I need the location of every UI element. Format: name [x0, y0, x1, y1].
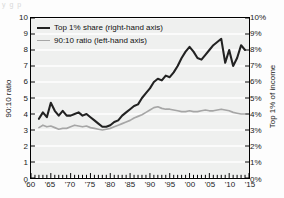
y-tick-label-left: 9: [8, 29, 28, 38]
x-tick-label: '95: [165, 180, 175, 189]
y-tick-label-left: 3: [8, 126, 28, 135]
y-tick-label-right: 7%: [250, 61, 262, 70]
y-tick-label-left: 1: [8, 158, 28, 167]
y-tick-label-right: 5%: [250, 94, 262, 103]
series-line-9010-ratio: [39, 107, 245, 130]
legend-label: Top 1% share (right-hand axis): [54, 23, 163, 32]
legend-label: 90:10 ratio (left-hand axis): [54, 36, 147, 45]
y-tick-label-left: 8: [8, 45, 28, 54]
legend-swatch-icon: [37, 40, 50, 41]
legend-item[interactable]: 90:10 ratio (left-hand axis): [37, 35, 163, 46]
y-tick-label-right: 8%: [250, 45, 262, 54]
x-tick-label: '00: [185, 180, 195, 189]
y-tick-label-left: 2: [8, 142, 28, 151]
x-tick-label: '75: [85, 180, 95, 189]
y-axis-ticks-left: 012345678910: [8, 17, 28, 179]
y-tick-label-left: 5: [8, 94, 28, 103]
x-tick-label: '80: [105, 180, 115, 189]
y-tick-label-right: 2%: [250, 142, 262, 151]
x-tick-label: '70: [65, 180, 75, 189]
y-tick-label-left: 6: [8, 77, 28, 86]
y-tick-label-right: 10%: [250, 13, 266, 22]
chart-legend: Top 1% share (right-hand axis)90:10 rati…: [37, 22, 163, 46]
x-axis-ticks: '60'65'70'75'80'85'90'95'00'05'10'15: [30, 180, 250, 194]
x-tick-label: '60: [25, 180, 35, 189]
y-tick-label-left: 4: [8, 110, 28, 119]
y-tick-label-right: 1%: [250, 158, 262, 167]
x-tick-label: '10: [225, 180, 235, 189]
legend-item[interactable]: Top 1% share (right-hand axis): [37, 22, 163, 33]
y-tick-label-left: 7: [8, 61, 28, 70]
x-tick-label: '15: [245, 180, 255, 189]
chart-figure: y g p 90:10 ratio Top 1% of income 01234…: [0, 0, 284, 198]
plot-area: Top 1% share (right-hand axis)90:10 rati…: [30, 17, 250, 179]
x-tick-label: '90: [145, 180, 155, 189]
x-tick-label: '85: [125, 180, 135, 189]
x-tick-label: '65: [45, 180, 55, 189]
y-tick-label-right: 3%: [250, 126, 262, 135]
y-tick-label-right: 6%: [250, 77, 262, 86]
y-tick-label-right: 9%: [250, 29, 262, 38]
x-tick-label: '05: [205, 180, 215, 189]
chart-canvas: 90:10 ratio Top 1% of income 01234567891…: [0, 8, 284, 198]
legend-swatch-icon: [37, 27, 50, 29]
y-tick-label-right: 4%: [250, 110, 262, 119]
y-axis-ticks-right: 0%1%2%3%4%5%6%7%8%9%10%: [250, 17, 274, 179]
y-tick-label-left: 10: [8, 13, 28, 22]
